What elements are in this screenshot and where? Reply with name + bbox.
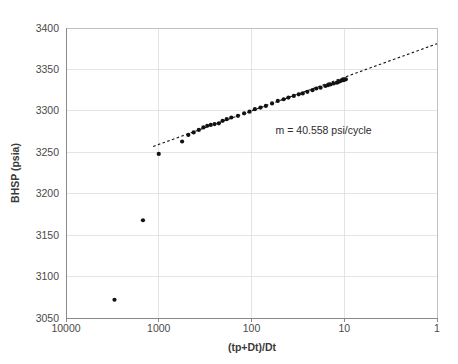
data-point xyxy=(305,90,309,94)
y-tick-label: 3350 xyxy=(36,63,60,75)
data-point xyxy=(209,123,213,127)
x-tick-label: 1000 xyxy=(147,322,171,334)
y-tick-label: 3100 xyxy=(36,270,60,282)
data-point xyxy=(310,88,314,92)
data-point xyxy=(270,101,274,105)
data-point xyxy=(157,152,161,156)
data-point xyxy=(282,97,286,101)
data-point xyxy=(344,77,348,81)
data-point xyxy=(318,86,322,90)
data-point xyxy=(212,122,216,126)
y-tick-label: 3300 xyxy=(36,104,60,116)
data-point xyxy=(229,115,233,119)
data-point xyxy=(247,110,251,114)
data-point xyxy=(180,139,184,143)
data-point xyxy=(276,99,280,103)
data-point xyxy=(197,128,201,132)
data-point xyxy=(205,124,209,128)
y-tick-label: 3250 xyxy=(36,146,60,158)
x-tick-label: 1 xyxy=(434,322,440,334)
y-tick-label: 3400 xyxy=(36,22,60,34)
data-point xyxy=(253,107,257,111)
data-point xyxy=(201,125,205,129)
data-point xyxy=(112,298,116,302)
data-point xyxy=(236,114,240,118)
horner-plot-figure: 30503100315032003250330033503400 1000010… xyxy=(0,0,458,364)
data-point xyxy=(297,92,301,96)
data-point xyxy=(286,96,290,100)
data-point xyxy=(192,130,196,134)
slope-annotation: m = 40.558 psi/cycle xyxy=(276,124,372,136)
data-point xyxy=(314,86,318,90)
data-point xyxy=(242,111,246,115)
x-tick-label: 100 xyxy=(243,322,261,334)
x-tick-label: 10000 xyxy=(51,322,80,334)
data-point xyxy=(264,104,268,108)
data-point xyxy=(258,105,262,109)
data-point xyxy=(301,91,305,95)
y-axis-title: BHSP (psia) xyxy=(9,143,21,203)
x-axis-title: (tp+Dt)/Dt xyxy=(228,341,277,353)
data-point xyxy=(141,218,145,222)
chart-canvas: 30503100315032003250330033503400 1000010… xyxy=(0,0,458,364)
figure-background xyxy=(0,0,458,364)
x-tick-label: 10 xyxy=(338,322,350,334)
data-point xyxy=(225,117,229,121)
y-tick-label: 3150 xyxy=(36,229,60,241)
data-point xyxy=(217,121,221,125)
data-point xyxy=(220,119,224,123)
data-point xyxy=(292,94,296,98)
data-point xyxy=(186,133,190,137)
y-tick-label: 3200 xyxy=(36,187,60,199)
